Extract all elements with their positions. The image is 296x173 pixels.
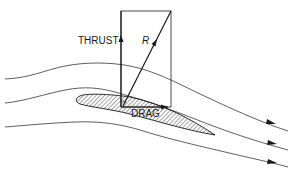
thrust-label: THRUST	[78, 35, 119, 46]
drag-label: DRAG	[131, 108, 160, 119]
thrust-arrowhead-icon	[119, 35, 124, 42]
streamline-top	[5, 63, 288, 131]
arrowhead-icon	[266, 119, 276, 124]
force-diagram-svg: THRUST R DRAG	[0, 0, 296, 173]
resultant-arrowhead-icon	[152, 39, 158, 47]
streamline-bottom	[5, 122, 288, 167]
arrowhead-icon	[267, 140, 277, 145]
resultant-vector	[123, 11, 171, 106]
diagram-canvas: THRUST R DRAG	[0, 0, 296, 173]
resultant-label: R	[142, 35, 149, 46]
streamline-arrowheads	[266, 119, 277, 164]
arrowhead-icon	[267, 159, 277, 164]
